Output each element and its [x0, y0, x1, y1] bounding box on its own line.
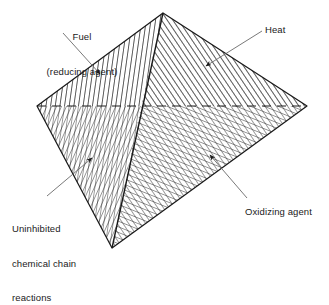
label-uninhibited-line1: Uninhibited	[12, 223, 76, 235]
label-heat: Heat	[265, 24, 285, 36]
label-uninhibited-line3: reactions	[12, 292, 76, 304]
label-fuel-line1: Fuel	[34, 31, 130, 43]
label-oxidizing-agent: Oxidizing agent	[245, 206, 312, 218]
label-uninhibited-line2: chemical chain	[12, 258, 76, 270]
label-uninhibited-chemical-chain-reactions: Uninhibited chemical chain reactions	[12, 200, 76, 305]
label-fuel-line2: (reducing agent)	[34, 66, 130, 78]
label-fuel: Fuel (reducing agent)	[34, 8, 130, 100]
